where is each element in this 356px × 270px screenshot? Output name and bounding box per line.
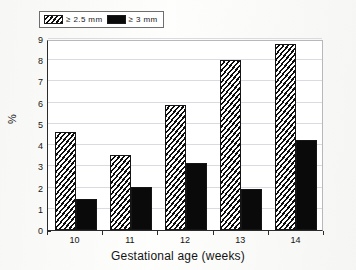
bar-11-series-1 [131,187,152,231]
gridline [48,38,322,39]
legend-label-1: ≥ 3 mm [129,16,158,24]
bar-group-14 [269,41,324,230]
bar-11-series-0 [110,155,131,230]
y-axis-tick-label: 2 [29,184,43,193]
bars-layer [48,41,322,230]
x-axis-tick-mark [47,231,48,235]
x-axis-tick-mark [102,231,103,235]
x-axis-tick-label: 13 [220,236,260,245]
bar-group-10 [48,41,103,230]
bar-12-series-0 [165,105,186,230]
hatched-swatch-icon [44,15,63,24]
x-axis-tick-label: 14 [275,236,315,245]
y-axis-title: % [6,114,18,124]
chart-figure: ≥ 2.5 mm ≥ 3 mm % 0123456789 1011121314 … [0,0,356,270]
y-axis-tick-labels: 0123456789 [27,40,43,231]
bar-12-series-1 [186,163,207,230]
x-axis-tick-mark [323,231,324,235]
x-axis-title: Gestational age (weeks) [0,249,356,263]
chart-legend: ≥ 2.5 mm ≥ 3 mm [39,11,164,28]
x-axis-tick-label: 11 [110,236,150,245]
y-axis-tick-label: 9 [29,36,43,45]
x-axis-tick-label: 10 [55,236,95,245]
bar-10-series-0 [55,132,76,230]
y-axis-tick-label: 8 [29,57,43,66]
bar-13-series-0 [220,60,241,230]
bar-14-series-0 [275,44,296,230]
bar-10-series-1 [76,199,97,230]
x-axis-tick-label: 12 [165,236,205,245]
bar-group-12 [158,41,213,230]
x-axis-tick-mark [268,231,269,235]
y-axis-tick-label: 6 [29,99,43,108]
y-axis-tick-label: 4 [29,142,43,151]
x-axis-tick-mark [213,231,214,235]
y-axis-tick-label: 7 [29,78,43,87]
bar-group-11 [103,41,158,230]
y-axis-tick-label: 0 [29,227,43,236]
y-axis-tick-label: 5 [29,120,43,129]
bar-14-series-1 [296,140,317,230]
y-axis-tick-label: 1 [29,205,43,214]
bar-group-13 [214,41,269,230]
legend-label-0: ≥ 2.5 mm [66,16,103,24]
solid-swatch-icon [107,15,126,24]
legend-entry-0: ≥ 2.5 mm [44,15,103,24]
legend-entry-1: ≥ 3 mm [107,15,158,24]
plot-area [47,40,323,231]
x-axis-tick-labels: 1011121314 [47,236,323,248]
x-axis-tick-mark [157,231,158,235]
bar-13-series-1 [241,189,262,230]
y-axis-tick-label: 3 [29,163,43,172]
